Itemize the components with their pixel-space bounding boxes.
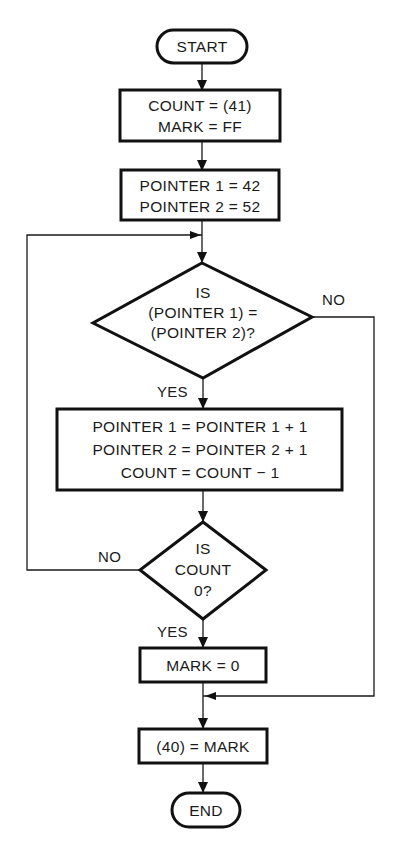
- compare-decision-diamond: IS (POINTER 1) = (POINTER 2)?: [93, 263, 312, 378]
- arrow-head-icon: [198, 718, 208, 729]
- compare-no-label: NO: [322, 291, 345, 308]
- init-pointers-box: POINTER 1 = 42 POINTER 2 = 52: [121, 170, 279, 220]
- count-decision-diamond: IS COUNT 0?: [140, 522, 266, 619]
- decision-line: (POINTER 1) =: [148, 304, 257, 321]
- start-terminal: START: [157, 30, 247, 63]
- box-line: POINTER 2 = POINTER 2 + 1: [92, 441, 307, 458]
- box-line: POINTER 1 = POINTER 1 + 1: [92, 418, 307, 435]
- box-line: POINTER 2 = 52: [140, 198, 261, 215]
- connector-compare-no: [203, 317, 374, 696]
- box-line: POINTER 1 = 42: [140, 177, 261, 194]
- arrow-head-icon: [198, 782, 208, 793]
- box-line: (40) = MARK: [156, 738, 250, 755]
- decision-line: IS: [195, 284, 210, 301]
- decision-line: COUNT: [175, 561, 232, 578]
- increment-box: POINTER 1 = POINTER 1 + 1 POINTER 2 = PO…: [57, 409, 342, 490]
- store-mark-box: (40) = MARK: [139, 729, 267, 763]
- mark-zero-box: MARK = 0: [140, 648, 266, 682]
- count-no-label: NO: [98, 548, 121, 565]
- init-count-box: COUNT = (41) MARK = FF: [120, 90, 280, 141]
- decision-line: 0?: [194, 582, 212, 599]
- flowchart-canvas: START COUNT = (41) MARK = FF POINTER 1 =…: [0, 0, 393, 854]
- arrow-head-icon: [190, 231, 201, 239]
- arrow-head-icon: [198, 637, 208, 648]
- count-yes-label: YES: [157, 623, 188, 640]
- arrow-head-icon: [205, 692, 216, 700]
- compare-yes-label: YES: [157, 383, 188, 400]
- arrow-head-icon: [198, 398, 208, 409]
- end-label: END: [189, 802, 223, 819]
- box-line: MARK = FF: [158, 118, 242, 135]
- decision-line: IS: [195, 540, 210, 557]
- decision-line: (POINTER 2)?: [151, 324, 255, 341]
- end-terminal: END: [172, 793, 240, 827]
- box-line: COUNT = COUNT − 1: [121, 464, 280, 481]
- box-line: COUNT = (41): [148, 97, 252, 114]
- start-label: START: [177, 38, 228, 55]
- box-line: MARK = 0: [166, 657, 240, 674]
